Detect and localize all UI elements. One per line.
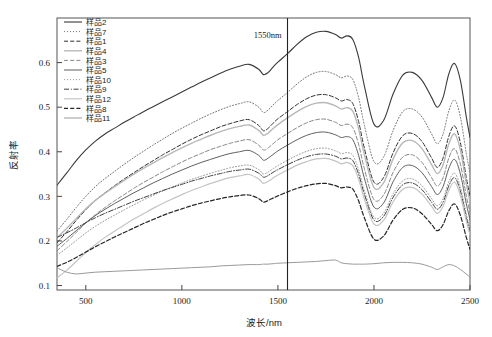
y-tick-label: 0.3 bbox=[39, 192, 51, 202]
x-tick-label: 2000 bbox=[365, 296, 384, 306]
y-tick-label: 0.4 bbox=[39, 147, 51, 157]
annotation-1550nm: 1550nm bbox=[254, 30, 282, 40]
x-tick-label: 2500 bbox=[461, 296, 480, 306]
legend-label-样品2: 样品2 bbox=[86, 17, 107, 27]
y-axis-title: 反射率 bbox=[8, 140, 19, 170]
legend-label-样品12: 样品12 bbox=[86, 94, 111, 104]
y-tick-label: 0.2 bbox=[39, 236, 50, 246]
legend-label-样品5: 样品5 bbox=[86, 65, 107, 75]
x-axis-title: 波长/nm bbox=[246, 317, 282, 328]
legend-label-样品8: 样品8 bbox=[86, 104, 107, 114]
annotation-labels: 1550nm bbox=[254, 30, 282, 40]
y-tick-label: 0.6 bbox=[39, 58, 51, 68]
chart-figure: 0.10.20.30.40.50.6 5001000150020002500 1… bbox=[0, 0, 492, 337]
legend-label-样品10: 样品10 bbox=[86, 75, 111, 85]
legend-label-样品9: 样品9 bbox=[86, 84, 107, 94]
y-tick-label: 0.1 bbox=[39, 281, 50, 291]
spectral-reflectance-chart: 0.10.20.30.40.50.6 5001000150020002500 1… bbox=[0, 0, 492, 337]
legend-label-样品11: 样品11 bbox=[86, 113, 111, 123]
x-tick-label: 500 bbox=[79, 296, 93, 306]
legend-label-样品7: 样品7 bbox=[86, 27, 107, 37]
legend-label-样品1: 样品1 bbox=[86, 36, 107, 46]
legend-label-样品4: 样品4 bbox=[86, 46, 107, 56]
x-tick-label: 1500 bbox=[269, 296, 288, 306]
legend-label-样品3: 样品3 bbox=[86, 56, 107, 66]
x-tick-label: 1000 bbox=[173, 296, 192, 306]
y-tick-label: 0.5 bbox=[39, 102, 51, 112]
